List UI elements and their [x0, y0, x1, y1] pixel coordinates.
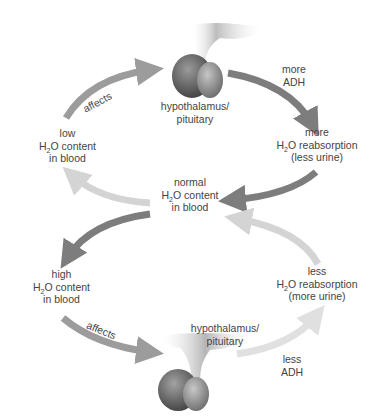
text-part: H — [161, 189, 169, 201]
label-line: high — [24, 268, 99, 281]
text-part: O reabsorption — [288, 278, 357, 290]
label-line: H2O reabsorption — [272, 139, 362, 152]
top-hypothalamus-label: hypothalamus/ pituitary — [160, 100, 230, 125]
label-line: pituitary — [160, 113, 230, 126]
arrow-normal-to-high — [68, 214, 150, 257]
label-line: (more urine) — [272, 290, 362, 303]
label-line: (less urine) — [272, 151, 362, 164]
more-reabsorption-label: more H2O reabsorption (less urine) — [272, 126, 362, 164]
text-part: O content — [44, 281, 90, 293]
label-line: H2O reabsorption — [272, 278, 362, 291]
label-line: ADH — [272, 366, 312, 379]
label-line: in blood — [24, 293, 99, 306]
label-line: more — [274, 63, 314, 76]
bottom-hypothalamus-label: hypothalamus/ pituitary — [190, 322, 260, 347]
label-line: H2O content — [24, 281, 99, 294]
text-part: O content — [173, 189, 219, 201]
text-part: H — [39, 140, 47, 152]
arrow-less-reabsorption-to-normal — [238, 219, 318, 264]
label-line: H2O content — [30, 140, 105, 153]
label-line: low — [30, 127, 105, 140]
arrow-more-reabsorption-to-normal — [232, 172, 316, 200]
arrow-normal-to-low — [73, 176, 150, 203]
text-part: H — [277, 139, 285, 151]
top-pituitary-gland-icon — [160, 20, 270, 102]
label-line: less — [272, 265, 362, 278]
label-line: normal — [150, 176, 230, 189]
normal-water-label: normal H2O content in blood — [150, 176, 230, 214]
more-adh-label: more ADH — [274, 63, 314, 88]
label-line: more — [272, 126, 362, 139]
less-adh-label: less ADH — [272, 353, 312, 378]
label-line: less — [272, 353, 312, 366]
text-part: O reabsorption — [288, 139, 357, 151]
label-line: H2O content — [150, 189, 230, 202]
text-part: H — [277, 278, 285, 290]
label-line: ADH — [274, 76, 314, 89]
text-part: H — [33, 281, 41, 293]
label-line: hypothalamus/ — [160, 100, 230, 113]
label-line: in blood — [150, 201, 230, 214]
label-line: pituitary — [190, 335, 260, 348]
less-reabsorption-label: less H2O reabsorption (more urine) — [272, 265, 362, 303]
low-water-label: low H2O content in blood — [30, 127, 105, 165]
label-line: in blood — [30, 152, 105, 165]
high-water-label: high H2O content in blood — [24, 268, 99, 306]
text-part: O content — [50, 140, 96, 152]
label-line: hypothalamus/ — [190, 322, 260, 335]
